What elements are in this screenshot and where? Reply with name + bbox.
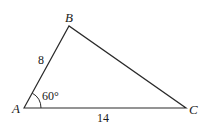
- side-label-ac: 14: [97, 111, 109, 125]
- vertex-label-c: C: [189, 102, 198, 117]
- angle-label-a: 60°: [42, 89, 59, 103]
- vertex-label-b: B: [65, 10, 73, 25]
- vertex-label-a: A: [11, 101, 20, 116]
- side-label-ab: 8: [38, 53, 44, 67]
- triangle-diagram: A B C 8 14 60°: [0, 0, 212, 135]
- angle-arc-a: [32, 93, 41, 108]
